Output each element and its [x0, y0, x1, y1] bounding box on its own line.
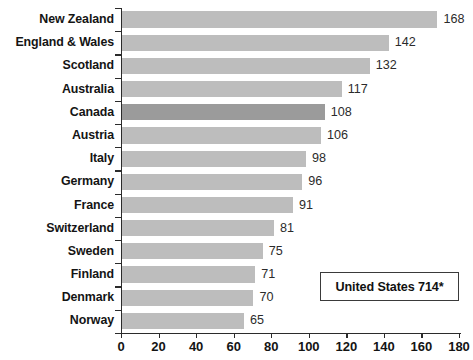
y-axis-tick [115, 54, 121, 55]
category-label: New Zealand [39, 8, 114, 31]
bar [122, 243, 263, 259]
category-label: Switzerland [46, 217, 114, 240]
bar-value-label: 142 [395, 31, 416, 54]
united-states-callout-label: United States 714* [335, 280, 443, 294]
y-axis-tick [115, 217, 121, 218]
y-axis-tick [115, 31, 121, 32]
bar [122, 220, 274, 236]
bar-row: Australia117 [0, 78, 473, 101]
bar-row: Scotland132 [0, 54, 473, 77]
bar-value-label: 91 [299, 194, 313, 217]
x-axis-tick [196, 333, 197, 338]
x-axis-tick-label: 120 [335, 339, 357, 354]
bar [122, 313, 244, 329]
x-axis-line [121, 333, 461, 334]
bar-value-label: 132 [376, 54, 397, 77]
x-axis-tick-label: 40 [189, 339, 203, 354]
category-label: Denmark [62, 286, 114, 309]
bar-highlighted [122, 104, 325, 120]
category-label: France [74, 194, 114, 217]
x-axis-tick [421, 333, 422, 338]
bar-row: Sweden75 [0, 240, 473, 263]
x-axis-tick [234, 333, 235, 338]
y-axis-line [121, 8, 122, 333]
y-axis-tick [115, 147, 121, 148]
y-axis-tick [115, 101, 121, 102]
bar-row: France91 [0, 194, 473, 217]
x-axis-tick-label: 160 [411, 339, 433, 354]
bar [122, 11, 437, 27]
x-axis-tick-label: 0 [117, 339, 124, 354]
bar-value-label: 108 [331, 101, 352, 124]
bar-value-label: 168 [443, 8, 464, 31]
x-axis-tick-label: 180 [448, 339, 470, 354]
bar-row: New Zealand168 [0, 8, 473, 31]
bar-value-label: 70 [259, 286, 273, 309]
x-axis-tick [271, 333, 272, 338]
x-axis-tick [159, 333, 160, 338]
category-label: Canada [70, 101, 114, 124]
x-axis-tick [309, 333, 310, 338]
x-axis-tick [459, 333, 460, 338]
bar [122, 151, 306, 167]
y-axis-tick [115, 310, 121, 311]
category-label: Norway [70, 309, 114, 332]
bar-row: Austria106 [0, 124, 473, 147]
y-axis-tick [115, 194, 121, 195]
bar-value-label: 75 [269, 240, 283, 263]
category-label: Germany [61, 170, 114, 193]
category-label: England & Wales [15, 31, 114, 54]
x-axis-tick-label: 60 [226, 339, 240, 354]
category-label: Austria [72, 124, 114, 147]
bar-row: England & Wales142 [0, 31, 473, 54]
bar [122, 58, 370, 74]
bar [122, 35, 389, 51]
bar-value-label: 98 [312, 147, 326, 170]
category-label: Scotland [62, 54, 114, 77]
y-axis-tick [115, 124, 121, 125]
bar-value-label: 106 [327, 124, 348, 147]
x-axis-tick [346, 333, 347, 338]
bar-row: Switzerland81 [0, 217, 473, 240]
bar-chart: New Zealand168England & Wales142Scotland… [0, 0, 473, 360]
category-label: Sweden [68, 240, 114, 263]
x-axis-tick-label: 140 [373, 339, 395, 354]
bar-row: Italy98 [0, 147, 473, 170]
bar [122, 266, 255, 282]
category-label: Australia [62, 78, 114, 101]
y-axis-tick [115, 286, 121, 287]
y-axis-tick [115, 170, 121, 171]
y-axis-tick [115, 8, 121, 9]
bar-value-label: 117 [348, 78, 368, 101]
bar-value-label: 65 [250, 309, 264, 332]
bar [122, 290, 253, 306]
x-axis-tick [121, 333, 122, 338]
category-label: Italy [90, 147, 114, 170]
x-axis-tick [384, 333, 385, 338]
x-axis-tick-label: 80 [264, 339, 278, 354]
y-axis-tick [115, 240, 121, 241]
y-axis-tick [115, 78, 121, 79]
bar [122, 174, 302, 190]
y-axis-tick [115, 263, 121, 264]
x-axis-tick-label: 20 [151, 339, 165, 354]
bar-row: Canada108 [0, 101, 473, 124]
united-states-callout: United States 714* [320, 272, 459, 301]
bar-row: Norway65 [0, 309, 473, 332]
bar-row: Germany96 [0, 170, 473, 193]
bar [122, 197, 293, 213]
bar [122, 127, 321, 143]
bar-value-label: 81 [280, 217, 294, 240]
bar [122, 81, 342, 97]
x-axis-tick-label: 100 [298, 339, 320, 354]
bar-value-label: 96 [308, 170, 322, 193]
bar-value-label: 71 [261, 263, 275, 286]
category-label: Finland [71, 263, 114, 286]
